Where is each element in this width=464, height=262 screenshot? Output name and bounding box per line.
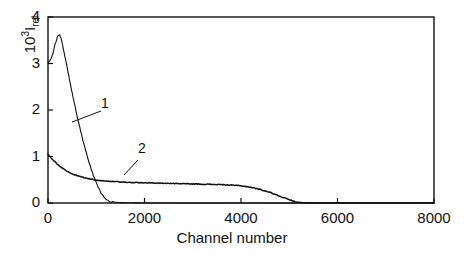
x-tick-label: 6000 xyxy=(308,209,368,226)
annotation-leader-lines xyxy=(72,111,138,175)
curve-label-2: 2 xyxy=(138,140,146,156)
y-axis-title-symbol: I xyxy=(21,27,38,31)
y-axis-title-subscript: rel xyxy=(30,16,41,27)
chart-figure: 01234 02000400060008000 12 103Irel Chann… xyxy=(0,0,464,262)
x-tick-label: 4000 xyxy=(211,209,271,226)
x-axis-title: Channel number xyxy=(0,229,464,246)
leader-line-2 xyxy=(124,160,138,175)
y-axis-title-exponent: 3 xyxy=(20,31,31,37)
y-tick-label: 2 xyxy=(14,100,40,117)
x-tick-label: 2000 xyxy=(115,209,175,226)
data-series xyxy=(48,35,434,203)
y-axis-title: 103Irel xyxy=(21,0,38,70)
x-tick-label: 8000 xyxy=(404,209,464,226)
x-tick-label: 0 xyxy=(18,209,78,226)
series-line-2 xyxy=(48,154,434,203)
y-axis-title-base: 10 xyxy=(21,37,38,54)
y-tick-label: 0 xyxy=(14,193,40,210)
series-line-1 xyxy=(48,35,434,203)
y-tick-label: 1 xyxy=(14,147,40,164)
curve-label-1: 1 xyxy=(101,95,109,111)
